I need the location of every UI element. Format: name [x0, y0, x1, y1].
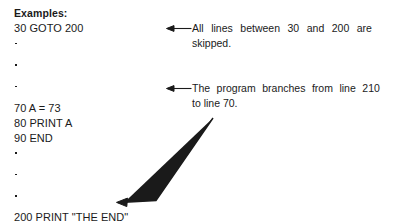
annotation-line: to line 70.: [192, 96, 392, 111]
annotation-note: All lines between 30 and 200 are skipped…: [192, 21, 392, 50]
annotation-line: The program branches from line 210: [192, 81, 392, 96]
vertical-ellipsis: [14, 86, 164, 101]
annotation-note: The program branches from line 210 to li…: [192, 81, 392, 110]
annotation-line: skipped.: [192, 36, 392, 51]
arrow-left-icon: [166, 83, 192, 94]
manual-page: Examples: 30 GOTO 200 70 A = 73 80 PRINT…: [0, 0, 404, 224]
vertical-ellipsis: [14, 43, 164, 58]
branch-arrow-icon: [110, 110, 230, 214]
examples-heading: Examples:: [14, 6, 164, 21]
code-line: 30 GOTO 200: [14, 21, 164, 36]
arrow-left-icon: [166, 23, 192, 34]
annotation-line: All lines between 30 and 200 are: [192, 21, 392, 36]
vertical-ellipsis: [14, 64, 164, 79]
